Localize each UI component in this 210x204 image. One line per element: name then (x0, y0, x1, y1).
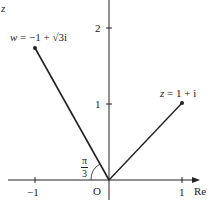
origin-label: O (93, 186, 101, 197)
vector-w (35, 48, 109, 180)
argand-diagram: z Re O −1 1 1 2 w = −1 + √3i z = 1 + i π… (0, 0, 210, 204)
point-z (180, 101, 184, 105)
real-axis-arrow-icon (192, 177, 200, 183)
point-w-label: w = −1 + √3i (10, 32, 67, 43)
imaginary-axis-label: z (1, 3, 5, 14)
y-tick-label-1: 1 (95, 99, 101, 110)
point-z-value: = 1 + i (164, 87, 196, 99)
point-w-value: = −1 + √3i (17, 31, 67, 43)
point-z-label: z = 1 + i (160, 88, 196, 99)
angle-arc (91, 164, 100, 180)
vector-z (109, 103, 182, 180)
x-tick-label-1: 1 (179, 187, 185, 198)
angle-label: π 3 (81, 156, 88, 179)
point-w (33, 46, 37, 50)
angle-numerator: π (81, 156, 88, 168)
angle-denominator: 3 (81, 168, 88, 179)
x-tick-label-minus-1: −1 (27, 187, 39, 198)
real-axis-label: Re (194, 186, 206, 197)
y-tick-label-2: 2 (95, 23, 101, 34)
